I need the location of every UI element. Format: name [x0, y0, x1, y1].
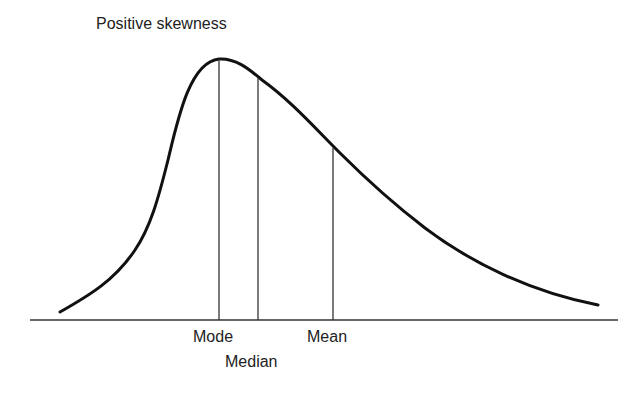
mean-label: Mean [307, 329, 347, 345]
mode-label: Mode [193, 329, 233, 345]
diagram-title: Positive skewness [96, 16, 227, 32]
median-label: Median [225, 354, 277, 370]
distribution-curve [60, 59, 598, 312]
